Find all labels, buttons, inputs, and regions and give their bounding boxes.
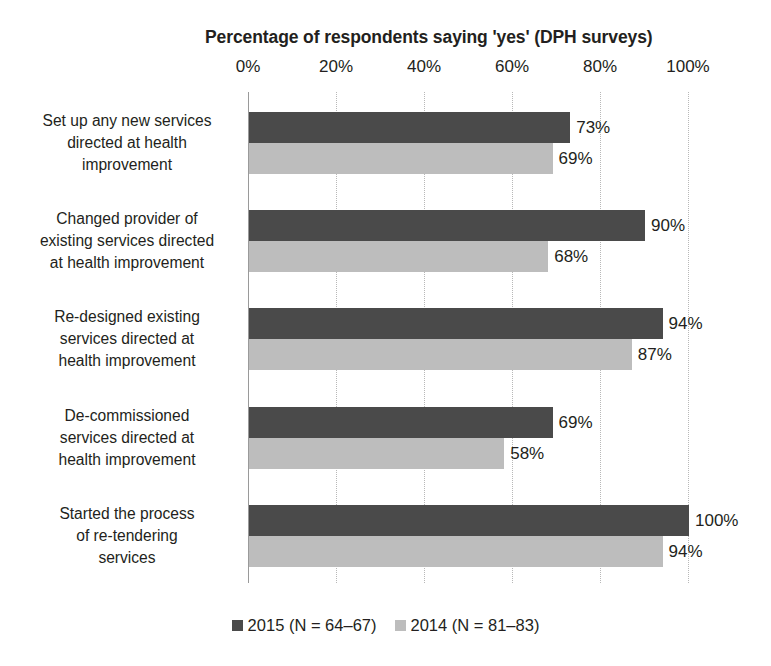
category-label-line: services [18,547,236,569]
x-tick-label-0: 0% [213,57,283,77]
category-label-line: Changed provider of [18,208,236,230]
x-tick-label-20: 20% [301,57,371,77]
x-tick-label-60: 60% [477,57,547,77]
legend-label: 2014 (N = 81–83) [411,616,540,635]
bar-value-label-2014-1: 69% [559,143,593,174]
x-tick-label-100: 100% [653,57,723,77]
bar-value-label-2015-2: 90% [651,210,685,241]
bar-value-label-2015-1: 73% [576,112,610,143]
category-label-line: services directed at [18,328,236,350]
bar-value-label-2015-5: 100% [695,505,738,536]
bar-2014-4 [249,438,504,469]
bar-2014-5 [249,536,663,567]
bar-2015-2 [249,210,645,241]
bar-2015-5 [249,505,689,536]
category-label-line: directed at health [18,132,236,154]
legend-swatch-icon [395,620,406,631]
bar-2015-1 [249,112,570,143]
legend-item-2015[interactable]: 2015 (N = 64–67) [232,616,377,635]
category-label-line: De-commissioned [18,405,236,427]
bar-2014-1 [249,143,553,174]
category-label-2: Changed provider ofexisting services dir… [18,208,236,274]
bar-value-label-2014-2: 68% [554,241,588,272]
bar-value-label-2014-4: 58% [510,438,544,469]
category-label-line: Re-designed existing [18,306,236,328]
category-label-line: health improvement [18,449,236,471]
category-label-line: existing services directed [18,230,236,252]
bar-value-label-2015-4: 69% [559,407,593,438]
category-label-1: Set up any new servicesdirected at healt… [18,110,236,176]
category-label-4: De-commissionedservices directed athealt… [18,405,236,471]
bar-2014-3 [249,339,632,370]
legend-swatch-icon [232,620,243,631]
category-label-line: services directed at [18,427,236,449]
bar-value-label-2014-3: 87% [638,339,672,370]
category-label-line: of re-tendering [18,525,236,547]
category-label-3: Re-designed existingservices directed at… [18,306,236,372]
chart-legend: 2015 (N = 64–67)2014 (N = 81–83) [0,616,771,635]
bar-chart: Percentage of respondents saying 'yes' (… [0,0,771,666]
category-label-5: Started the processof re-tenderingservic… [18,503,236,569]
bar-value-label-2015-3: 94% [669,308,703,339]
bar-2015-3 [249,308,663,339]
x-tick-label-80: 80% [565,57,635,77]
bar-value-label-2014-5: 94% [669,536,703,567]
category-label-line: Started the process [18,503,236,525]
category-label-line: improvement [18,154,236,176]
category-label-line: Set up any new services [18,110,236,132]
category-label-line: health improvement [18,350,236,372]
x-tick-label-40: 40% [389,57,459,77]
legend-item-2014[interactable]: 2014 (N = 81–83) [395,616,540,635]
bar-2015-4 [249,407,553,438]
plot-area: 73%69%90%68%94%87%69%58%100%94% [248,92,688,583]
category-label-line: at health improvement [18,252,236,274]
legend-label: 2015 (N = 64–67) [248,616,377,635]
chart-title: Percentage of respondents saying 'yes' (… [205,27,765,48]
bar-2014-2 [249,241,548,272]
